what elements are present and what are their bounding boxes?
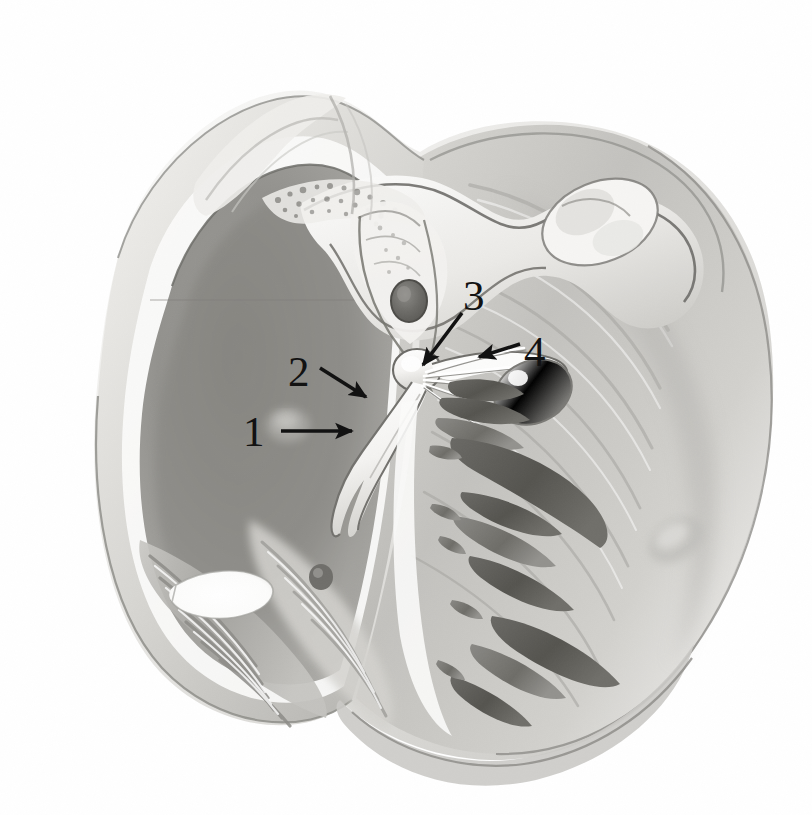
- callout-label-1: 1: [243, 410, 265, 453]
- figure-root: 1 2 3 4: [0, 0, 812, 815]
- anatomical-illustration: [0, 0, 812, 815]
- callout-label-4: 4: [524, 330, 546, 373]
- callout-label-2: 2: [288, 350, 310, 393]
- paper-grain-overlay: [0, 0, 812, 815]
- callout-label-3: 3: [463, 274, 485, 317]
